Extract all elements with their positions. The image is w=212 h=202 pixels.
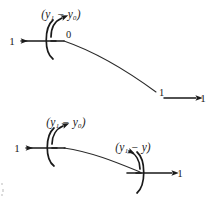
label-lower-left-output-one: 1 <box>14 142 20 154</box>
label-upper-target-state-one: 1 <box>159 87 164 98</box>
diagram-svg: (y₁ − y₀) 0 1 1 1 (y₁ − y₀) 1 (y₁ − y) 1 <box>0 0 212 202</box>
scan-artifact <box>1 183 3 185</box>
label-upper-target-output-one: 1 <box>200 92 206 104</box>
node-arc-upper-source <box>46 20 53 59</box>
scan-artifact <box>2 189 4 192</box>
scan-artifact <box>1 194 3 196</box>
label-upper-arc-expression: (y₁ − y₀) <box>41 8 81 21</box>
label-upper-output-one: 1 <box>9 35 15 47</box>
figure-canvas: (y₁ − y₀) 0 1 1 1 (y₁ − y₀) 1 (y₁ − y) 1 <box>0 0 212 202</box>
label-lower-right-arc-expression: (y₁ − y) <box>115 141 151 154</box>
label-upper-state-zero: 0 <box>66 29 71 40</box>
node-arc-lower-left <box>47 128 54 166</box>
label-lower-right-output-one: 1 <box>177 167 183 179</box>
edge-upper-source-to-target <box>64 41 156 92</box>
label-lower-left-arc-expression: (y₁ − y₀) <box>46 116 86 129</box>
